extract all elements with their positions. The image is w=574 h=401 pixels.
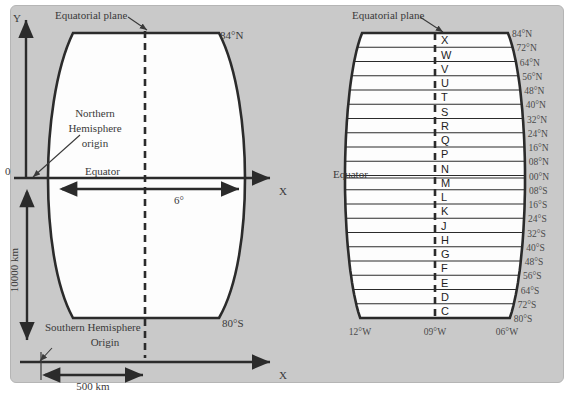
right-latitude-label: 56°N [522, 72, 542, 82]
right-band-letter: W [441, 49, 452, 61]
right-latitude-label: 16°N [529, 143, 549, 153]
right-band-letter: D [441, 291, 449, 303]
right-longitude-label: 12°W [349, 327, 371, 337]
left-equator-label: Equator [85, 165, 120, 177]
right-band-letter: N [441, 163, 449, 175]
left-bottom-latitude-label: 80°S [222, 317, 244, 329]
left-equatorial-plane-leader [128, 17, 147, 30]
figure-root: Y Equatorial plane 84°N Northern Hemisph… [0, 0, 574, 401]
left-y-axis-label: Y [13, 12, 21, 24]
right-band-letter: X [441, 34, 449, 46]
right-latitude-label: 48°S [525, 257, 544, 267]
left-origin-label: 0 [5, 165, 11, 177]
right-band-letter: K [441, 205, 449, 217]
left-x-axis-label: X [279, 185, 287, 197]
right-band-letter: E [441, 277, 448, 289]
right-latitude-label: 64°S [521, 286, 540, 296]
right-longitude-label: 06°W [496, 327, 518, 337]
right-bottom-latitude-label: 80°S [514, 314, 533, 324]
right-band-letter: M [441, 177, 450, 189]
right-band-letter: J [441, 220, 447, 232]
right-longitude-label: 09°W [424, 327, 446, 337]
right-band-letter: Q [441, 134, 450, 146]
right-band-letter: V [441, 63, 449, 75]
right-latitude-label: 72°N [517, 43, 537, 53]
left-zone-outline [48, 33, 245, 318]
right-latitude-label: 64°N [520, 58, 540, 68]
right-band-letter: S [441, 106, 448, 118]
right-band-letter: H [441, 234, 449, 246]
right-equatorial-plane-label: Equatorial plane [352, 9, 425, 21]
left-southern-origin-leader [40, 348, 52, 361]
right-band-letter: G [441, 248, 450, 260]
right-band-letter: T [441, 91, 448, 103]
diagram-canvas: Y Equatorial plane 84°N Northern Hemisph… [0, 0, 574, 401]
right-band-letter: R [441, 120, 449, 132]
left-southern-origin-label-line1: Southern Hemisphere [45, 321, 141, 333]
right-latitude-label: 84°N [512, 29, 532, 39]
right-latitude-label: 40°S [526, 243, 545, 253]
right-latitude-label: 56°S [523, 271, 542, 281]
left-region-label-line2: Hemisphere [68, 122, 121, 134]
right-latitude-label: 32°N [527, 115, 547, 125]
left-region-label-line1: Northern [75, 107, 115, 119]
left-top-latitude-label: 84°N [220, 29, 243, 41]
right-latitude-label: 24°S [528, 214, 547, 224]
right-latitude-label: 24°N [528, 129, 548, 139]
left-lower-x-axis-label: X [279, 369, 287, 381]
right-band-letter: C [441, 305, 449, 317]
right-latitude-label: 08°S [529, 186, 548, 196]
right-band-letter: L [441, 191, 447, 203]
right-latitude-label: 32°S [527, 229, 546, 239]
right-latitude-label: 16°S [529, 200, 548, 210]
left-southern-origin-label-line2: Origin [91, 336, 120, 348]
left-height-dimension-label: 10000 km [8, 247, 20, 292]
right-latitude-label: 08°N [529, 157, 549, 167]
right-band-letter: P [441, 148, 448, 160]
right-latitude-label: 00°N [529, 172, 549, 182]
left-equatorial-plane-label: Equatorial plane [55, 9, 128, 21]
right-band-letter: U [441, 77, 449, 89]
right-equator-label: Equator [333, 168, 368, 180]
right-band-letter: F [441, 262, 448, 274]
right-latitude-label: 40°N [526, 100, 546, 110]
left-offset-dimension-label: 500 km [76, 380, 110, 392]
left-region-label-line3: origin [82, 137, 109, 149]
right-latitude-label: 72°S [518, 300, 537, 310]
left-width-dimension-label: 6° [174, 194, 184, 206]
right-panel: X84°NW72°NV64°NU56°NT48°NS40°NR32°NQ24°N… [345, 29, 549, 337]
right-latitude-label: 48°N [524, 86, 544, 96]
